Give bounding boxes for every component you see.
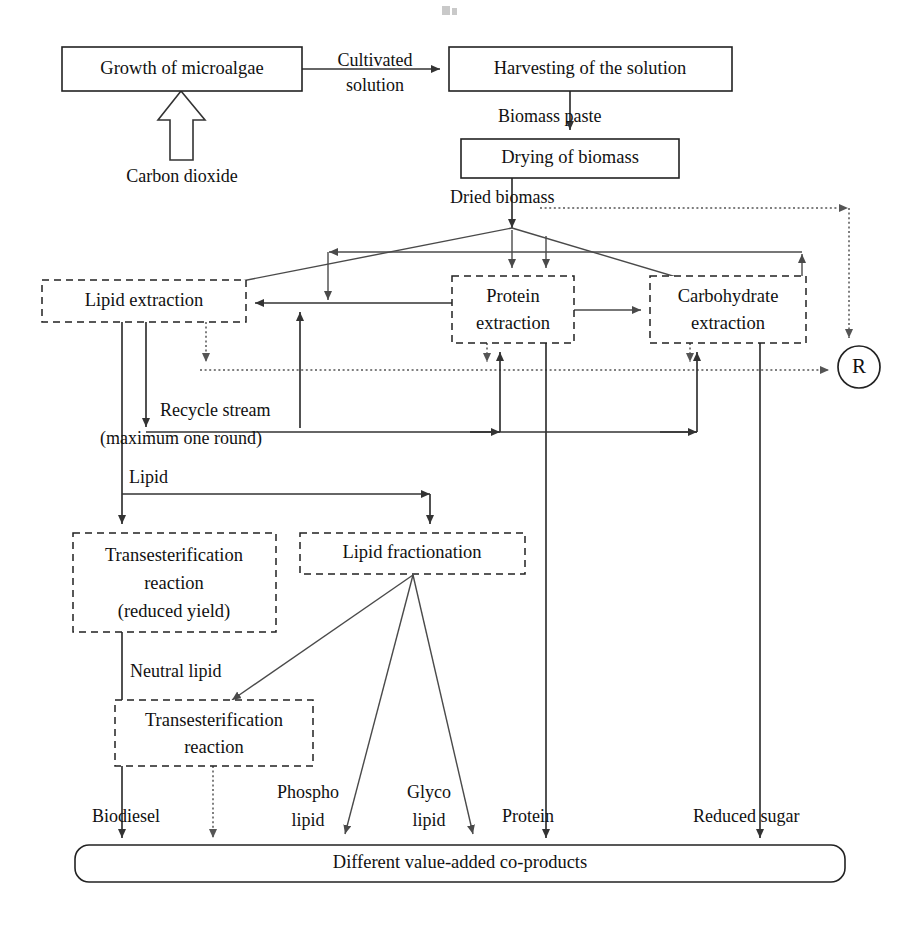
node-transesterification-reaction[interactable]: Transesterification reaction <box>115 700 313 766</box>
edge-label-lipid: Lipid <box>129 467 168 487</box>
node-transest-reduced-label-3: (reduced yield) <box>118 601 230 622</box>
edge-label-protein-out: Protein <box>502 806 554 826</box>
edge-label-glyco-line1: Glyco <box>407 782 451 802</box>
node-growth[interactable]: Growth of microalgae <box>62 47 302 91</box>
node-transest-reduced-label-2: reaction <box>144 573 204 593</box>
edge-label-biomass-paste: Biomass paste <box>498 106 602 126</box>
edge-label-recycle-stream-line1: Recycle stream <box>160 400 270 420</box>
node-carbohydrate-extraction[interactable]: Carbohydrate extraction <box>650 276 806 343</box>
node-carbohydrate-extraction-label-2: extraction <box>691 313 765 333</box>
edge-label-dried-biomass: Dried biomass <box>450 187 554 207</box>
edge-fractionation-phospho <box>345 575 413 834</box>
node-recycle-r[interactable]: R <box>838 346 880 388</box>
node-coproducts-label: Different value-added co-products <box>333 852 587 872</box>
node-lipid-fractionation-label: Lipid fractionation <box>342 542 481 562</box>
edge-label-phospho-line1: Phospho <box>277 782 339 802</box>
edge-label-neutral-lipid: Neutral lipid <box>130 661 221 681</box>
node-harvesting[interactable]: Harvesting of the solution <box>449 47 732 91</box>
edge-label-recycle-stream-line2: (maximum one round) <box>100 428 262 449</box>
scan-artifact <box>442 6 450 15</box>
edge-label-glyco-line2: lipid <box>412 810 445 830</box>
node-lipid-extraction-label: Lipid extraction <box>85 290 204 310</box>
node-drying-label: Drying of biomass <box>501 147 639 167</box>
node-transesterification-reduced-yield[interactable]: Transesterification reaction (reduced yi… <box>73 533 276 632</box>
node-transest2-label-2: reaction <box>184 737 244 757</box>
process-flow-diagram: Growth of microalgae Harvesting of the s… <box>0 0 898 934</box>
node-protein-extraction[interactable]: Protein extraction <box>452 276 574 343</box>
node-protein-extraction-label-2: extraction <box>476 313 550 333</box>
scan-artifact <box>452 8 457 15</box>
node-carbohydrate-extraction-label-1: Carbohydrate <box>678 286 779 306</box>
node-coproducts[interactable]: Different value-added co-products <box>75 845 845 882</box>
node-harvesting-label: Harvesting of the solution <box>494 58 687 78</box>
node-lipid-fractionation[interactable]: Lipid fractionation <box>300 533 525 574</box>
edge-label-carbon-dioxide: Carbon dioxide <box>126 166 237 186</box>
edge-label-cultivated-solution-line2: solution <box>346 75 404 95</box>
node-protein-extraction-label-1: Protein <box>486 286 539 306</box>
edge-label-reduced-sugar: Reduced sugar <box>693 806 799 826</box>
carbon-dioxide-block-arrow <box>158 91 205 160</box>
node-transest-reduced-label-1: Transesterification <box>105 545 243 565</box>
node-growth-label: Growth of microalgae <box>100 58 263 78</box>
node-lipid-extraction[interactable]: Lipid extraction <box>42 280 246 322</box>
edge-label-phospho-line2: lipid <box>291 810 324 830</box>
node-transest2-label-1: Transesterification <box>145 710 283 730</box>
node-recycle-r-label: R <box>852 354 866 378</box>
edge-label-cultivated-solution-line1: Cultivated <box>338 50 413 70</box>
edge-label-biodiesel: Biodiesel <box>92 806 160 826</box>
node-drying[interactable]: Drying of biomass <box>461 139 679 178</box>
